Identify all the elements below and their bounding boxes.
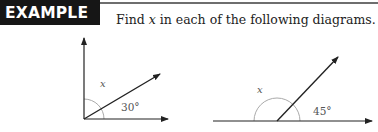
right-angle-label: 45° [313, 105, 332, 117]
right-angle-arc [254, 98, 300, 121]
right-unknown-label: x [257, 84, 263, 95]
left-angle-label: 30° [121, 101, 140, 113]
left-diagram: x 30° [84, 38, 168, 119]
diagrams-canvas: x 30° x 45° [0, 0, 378, 132]
right-diagram: x 45° [213, 57, 372, 121]
left-unknown-label: x [100, 78, 106, 89]
